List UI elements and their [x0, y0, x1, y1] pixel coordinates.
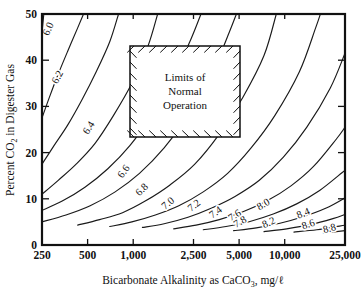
x-tick-label: 10,000: [269, 249, 301, 261]
x-axis-title-prefix: Bicarbonate Alkalinity as CaCO: [102, 274, 251, 287]
y-tick-label: 40: [26, 54, 38, 66]
contour-label: 8.2: [260, 215, 276, 230]
contour-label: 7.2: [185, 197, 202, 214]
contour-label: 8.0: [255, 196, 272, 212]
contour-line: [42, 14, 119, 164]
y-axis-title-prefix: Percent CO: [4, 143, 16, 196]
y-axis-title: Percent CO2 in Digester Gas: [4, 64, 19, 196]
x-tick-label: 1,000: [120, 249, 146, 261]
x-axis-title-suffix: , mg/ℓ: [255, 274, 284, 287]
annotation-line-2: Normal: [168, 85, 202, 97]
annotation-line-3: Operation: [163, 99, 207, 111]
x-tick-label: 5,000: [226, 249, 252, 261]
contour-label: 6.2: [49, 69, 65, 86]
limits-of-normal-operation-box: Limits of Normal Operation: [127, 46, 240, 137]
contour-label: 7.0: [159, 195, 176, 212]
x-tick-labels-group: 2505001,0002,5005,00010,00025,000: [33, 249, 361, 261]
y-tick-label: 50: [26, 8, 38, 20]
y-tick-label: 30: [26, 100, 38, 112]
contour-label: 8.8: [322, 221, 338, 235]
contour-label: 6.4: [80, 119, 97, 137]
contour-label: 6.8: [133, 181, 150, 198]
y-tick-labels-group: 01020304050: [26, 8, 38, 251]
x-tick-label: 25,000: [329, 249, 361, 261]
x-axis-title: Bicarbonate Alkalinity as CaCO3, mg/ℓ: [102, 274, 284, 289]
ph-nomograph-figure: Limits of Normal Operation 6.06.06.26.26…: [0, 0, 362, 295]
y-tick-label: 0: [31, 239, 37, 251]
y-tick-label: 20: [26, 147, 38, 159]
y-axis-title-suffix: in Digester Gas: [4, 64, 17, 139]
x-tick-label: 500: [79, 249, 97, 261]
annotation-line-1: Limits of: [165, 71, 206, 83]
contour-label: 6.6: [115, 163, 132, 180]
y-tick-label: 10: [26, 193, 38, 205]
x-tick-label: 2,500: [181, 249, 207, 261]
contour-label: 7.4: [207, 203, 225, 220]
chart-svg: Limits of Normal Operation 6.06.06.26.26…: [0, 0, 362, 295]
